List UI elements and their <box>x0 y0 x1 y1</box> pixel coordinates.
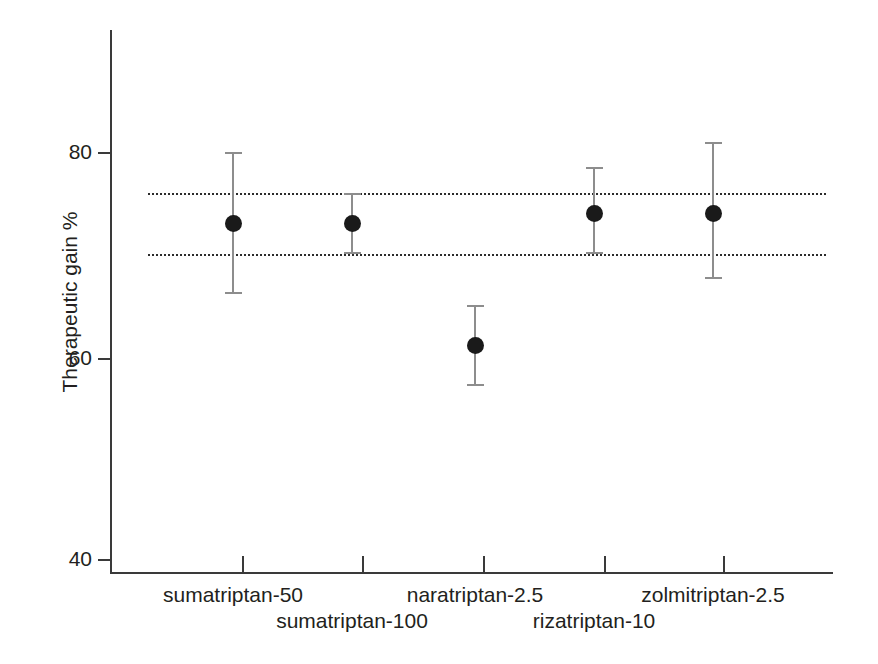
data-point-marker <box>225 215 242 232</box>
x-tick-zolmitriptan-2.5 <box>723 556 725 573</box>
y-tick-80 <box>98 152 111 154</box>
y-tick-40 <box>98 559 111 561</box>
x-category-label: naratriptan-2.5 <box>407 584 544 606</box>
error-bar-chart: Therapeutic gain % 80 60 40 sumatriptan-… <box>0 0 878 664</box>
error-bar-cap-upper <box>586 167 603 169</box>
y-tick-label-60-wrap: 60 <box>20 347 92 369</box>
error-bar-cap-lower <box>467 384 484 386</box>
error-bar-cap-upper <box>467 305 484 307</box>
x-tick-sumatriptan-100 <box>362 556 364 573</box>
error-bar-cap-upper <box>705 142 722 144</box>
error-bar-cap-upper <box>225 152 242 154</box>
y-axis-line <box>110 30 112 574</box>
y-tick-label-80: 80 <box>32 141 92 162</box>
x-category-label: sumatriptan-100 <box>276 610 428 632</box>
error-bar-cap-upper <box>344 193 361 195</box>
data-point-marker <box>586 205 603 222</box>
x-tick-naratriptan-2.5 <box>483 556 485 573</box>
x-category-label: sumatriptan-50 <box>163 584 303 606</box>
x-category-label: zolmitriptan-2.5 <box>641 584 785 606</box>
y-tick-label-40: 40 <box>32 548 92 569</box>
error-bar-cap-lower <box>344 252 361 254</box>
x-tick-rizatriptan-10 <box>604 556 606 573</box>
y-tick-label-40-wrap: 40 <box>20 548 92 570</box>
reference-line-upper <box>148 193 826 195</box>
data-point-marker <box>344 215 361 232</box>
x-tick-sumatriptan-50 <box>242 556 244 573</box>
reference-line-lower <box>148 254 826 256</box>
y-tick-label-80-wrap: 80 <box>20 141 92 163</box>
y-axis-title: Therapeutic gain % <box>58 172 82 432</box>
error-bar-cap-lower <box>586 252 603 254</box>
y-tick-label-60: 60 <box>32 347 92 368</box>
y-tick-60 <box>98 358 111 360</box>
data-point-marker <box>467 337 484 354</box>
x-category-label: rizatriptan-10 <box>533 610 656 632</box>
error-bar-cap-lower <box>705 277 722 279</box>
error-bar-cap-lower <box>225 292 242 294</box>
data-point-marker <box>705 205 722 222</box>
